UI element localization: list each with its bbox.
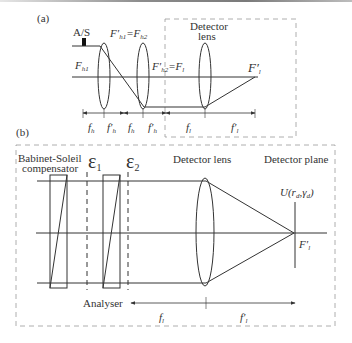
epsilon-2: ε2 bbox=[126, 150, 139, 173]
lens-h2 bbox=[137, 43, 149, 109]
detector-lens-label-b: Detector lens bbox=[173, 153, 231, 165]
panel-a-label: (a) bbox=[37, 12, 50, 25]
optical-diagram: (a) A/S Fh1 F′h1=Fh2 F′h2=Fl F′l bbox=[0, 0, 352, 343]
focus-fh2p-fl: F′h2=Fl bbox=[151, 60, 184, 74]
epsilon-1: ε1 bbox=[88, 150, 101, 173]
focus-fh1p-fh2: F′h1=Fh2 bbox=[109, 27, 148, 41]
focus-fh1: Fh1 bbox=[74, 59, 89, 73]
panel-b-label: (b) bbox=[16, 126, 29, 139]
detector-lens-a bbox=[199, 43, 211, 109]
lens-h1 bbox=[98, 43, 110, 109]
aperture-stop-icon bbox=[82, 38, 86, 46]
focus-flp: F′l bbox=[247, 60, 261, 76]
compensator-plate-2 bbox=[103, 175, 120, 288]
panel-a: (a) A/S Fh1 F′h1=Fh2 F′h2=Fl F′l bbox=[37, 12, 296, 137]
dist-flp-b: f′l bbox=[240, 311, 247, 325]
dist-fhp-2: f′h bbox=[148, 121, 157, 135]
dist-fh-1: fh bbox=[88, 121, 95, 135]
panel-b: (b) Babinet-Soleil compensator ε1 ε2 Det… bbox=[16, 126, 335, 326]
dist-fhp-1: f′h bbox=[107, 121, 116, 135]
detector-plane-label: Detector plane bbox=[264, 153, 329, 165]
dist-fl: fl bbox=[186, 121, 191, 135]
field-label: U(rd,γd) bbox=[280, 186, 314, 200]
dist-flp: f′l bbox=[231, 121, 238, 135]
dist-fl-b: fl bbox=[159, 311, 164, 325]
analyser-label: Analyser bbox=[83, 297, 123, 309]
detector-box-a bbox=[165, 19, 296, 137]
compensator-label-2: compensator bbox=[22, 162, 79, 174]
detector-lens-label-2: lens bbox=[198, 30, 216, 42]
dist-fh-2: fh bbox=[128, 121, 135, 135]
detector-lens-b bbox=[196, 178, 214, 286]
compensator-plate-1 bbox=[50, 175, 67, 288]
focus-flp-b: F′l bbox=[298, 238, 310, 252]
aperture-stop-label: A/S bbox=[73, 26, 90, 38]
